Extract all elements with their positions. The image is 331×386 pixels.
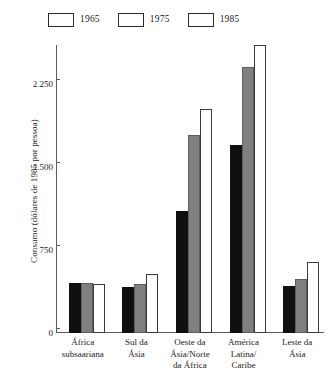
x-axis-label-line: da África: [159, 360, 221, 372]
bar-1975-0: [81, 283, 93, 333]
bar-group: [176, 45, 212, 333]
y-axis-tick: 2.250: [33, 79, 56, 89]
x-axis-label-line: Oeste da: [159, 337, 221, 349]
legend-label-1965: 1965: [80, 15, 100, 25]
legend-item-1965: 1965: [48, 13, 100, 27]
x-axis-label-line: Ásia: [266, 349, 328, 361]
x-axis-label-line: Sul da: [106, 337, 168, 349]
bar-1975-2: [188, 135, 200, 333]
plot-area: 07501.5002.250: [56, 45, 324, 333]
legend-item-1975: 1975: [118, 13, 170, 27]
bar-1985-1: [146, 274, 158, 333]
y-axis-tick: 1.500: [33, 162, 56, 172]
y-axis-tick-label: 2.250: [33, 79, 56, 89]
x-axis-label-1: Sul daÁsia: [106, 337, 168, 360]
legend-item-1985: 1985: [188, 13, 240, 27]
y-axis-tick-mark: [56, 245, 60, 246]
y-axis-tick: 750: [40, 245, 57, 255]
x-axis-label-line: Leste da: [266, 337, 328, 349]
bar-1975-3: [242, 67, 254, 333]
x-axis-label-2: Oeste daÁsia/Norteda África: [159, 337, 221, 372]
bar-1965-4: [283, 286, 295, 333]
x-axis-label-line: Ásia/Norte: [159, 349, 221, 361]
bars-layer: [56, 45, 324, 333]
bar-1965-2: [176, 211, 188, 333]
bar-1985-4: [307, 262, 319, 333]
x-axis-category-labels: ÁfricasubsaarianaSul daÁsiaOeste daÁsia/…: [56, 337, 324, 385]
x-axis-label-line: Caribe: [213, 360, 275, 372]
legend-swatch-1985: [188, 13, 214, 27]
chart-legend: 1965 1975 1985: [48, 8, 257, 32]
legend-swatch-1965: [48, 13, 74, 27]
bar-1985-2: [200, 109, 212, 333]
bar-group: [230, 45, 266, 333]
y-axis-tick-label: 1.500: [33, 162, 56, 172]
x-axis-label-line: América: [213, 337, 275, 349]
bar-1985-0: [93, 284, 105, 333]
y-axis-tick-mark: [56, 328, 60, 329]
x-axis-label-line: subsaariana: [52, 349, 114, 361]
bar-1965-0: [69, 283, 81, 333]
x-axis-label-3: AméricaLatina/Caribe: [213, 337, 275, 372]
bar-group: [69, 45, 105, 333]
y-axis-tick-mark: [56, 79, 60, 80]
legend-label-1985: 1985: [220, 15, 240, 25]
legend-swatch-1975: [118, 13, 144, 27]
bar-1975-1: [134, 284, 146, 333]
x-axis-label-line: África: [52, 337, 114, 349]
x-axis-label-0: Áfricasubsaariana: [52, 337, 114, 360]
y-axis-title: Consumo (dólares de 1985 por pessoa): [29, 71, 39, 311]
bar-group: [283, 45, 319, 333]
x-axis-label-line: Latina/: [213, 349, 275, 361]
x-axis-label-line: Ásia: [106, 349, 168, 361]
bar-1985-3: [254, 45, 266, 333]
bar-group: [122, 45, 158, 333]
bar-1965-1: [122, 287, 134, 333]
x-axis-label-4: Leste daÁsia: [266, 337, 328, 360]
bar-1965-3: [230, 145, 242, 333]
y-axis-tick-mark: [56, 162, 60, 163]
bar-chart: 1965 1975 1985 Consumo (dólares de 1985 …: [0, 0, 331, 386]
y-axis-tick-label: 750: [40, 245, 57, 255]
bar-1975-4: [295, 279, 307, 333]
legend-label-1975: 1975: [150, 15, 170, 25]
